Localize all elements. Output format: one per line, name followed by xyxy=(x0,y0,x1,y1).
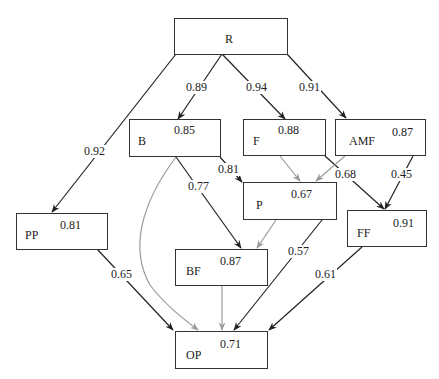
node-f-label: F xyxy=(253,134,260,149)
node-b-value: 0.85 xyxy=(174,123,195,138)
node-op-value: 0.71 xyxy=(220,337,241,352)
node-pp-value: 0.81 xyxy=(60,218,81,233)
edge-label-amf-ff: 0.45 xyxy=(390,168,413,181)
node-op: OP 0.71 xyxy=(175,331,268,369)
path-diagram: R B 0.85 F 0.88 AMF 0.87 PP 0.81 P 0.67 … xyxy=(0,0,439,379)
node-pp: PP 0.81 xyxy=(16,213,108,250)
node-ff-label: FF xyxy=(357,226,370,241)
edge-label-b-p: 0.81 xyxy=(217,163,240,176)
node-bf-value: 0.87 xyxy=(220,254,241,269)
edge-amf-ff xyxy=(385,156,413,209)
node-b: B 0.85 xyxy=(129,119,221,157)
node-p-label: P xyxy=(256,198,263,213)
node-f-value: 0.88 xyxy=(278,123,299,138)
edge-label-pp-op: 0.65 xyxy=(110,268,133,281)
node-amf: AMF 0.87 xyxy=(335,119,426,156)
node-ff: FF 0.91 xyxy=(347,210,427,247)
node-r-label: R xyxy=(225,32,233,47)
edge-label-r-amf: 0.91 xyxy=(298,81,321,94)
edge-pp-op xyxy=(97,249,173,330)
node-r: R xyxy=(174,18,288,55)
edge-label-p-op: 0.57 xyxy=(287,245,310,258)
node-op-label: OP xyxy=(186,348,201,363)
edges-layer xyxy=(0,0,439,379)
node-f: F 0.88 xyxy=(243,119,326,156)
node-amf-value: 0.87 xyxy=(392,125,413,140)
edge-label-r-b: 0.89 xyxy=(185,81,208,94)
edge-label-r-f: 0.94 xyxy=(245,81,268,94)
node-p: P 0.67 xyxy=(243,182,337,220)
node-pp-label: PP xyxy=(25,228,38,243)
edge-ff-op xyxy=(269,247,362,330)
edge-p-bf xyxy=(257,220,276,248)
edge-label-ff-op: 0.61 xyxy=(314,268,337,281)
edge-label-r-pp: 0.92 xyxy=(83,145,106,158)
node-ff-value: 0.91 xyxy=(393,216,414,231)
node-bf-label: BF xyxy=(186,264,201,279)
node-amf-label: AMF xyxy=(349,134,375,149)
node-bf: BF 0.87 xyxy=(175,249,268,286)
edge-label-f-ff: 0.68 xyxy=(334,168,357,181)
node-p-value: 0.67 xyxy=(291,187,312,202)
node-b-label: B xyxy=(138,134,146,149)
edge-label-b-bf: 0.77 xyxy=(187,180,210,193)
edge-f-p xyxy=(280,156,300,181)
